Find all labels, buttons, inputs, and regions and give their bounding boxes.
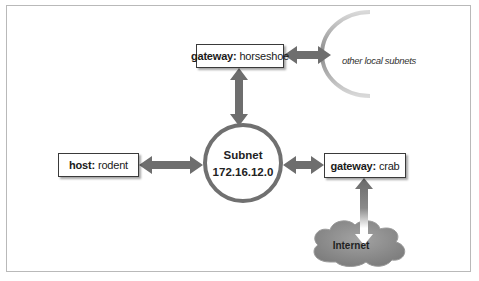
node-host-rodent[interactable]: host: rodent xyxy=(58,153,139,177)
node-name-label: crab xyxy=(379,160,400,172)
subnet-label: Subnet 172.16.12.0 xyxy=(205,147,281,181)
other-subnets-label: other local subnets xyxy=(342,55,416,66)
node-role-label: host: xyxy=(69,159,95,171)
node-gateway-horseshoe[interactable]: gateway: horseshoe xyxy=(196,44,284,68)
arrow-crab-internet xyxy=(355,178,373,245)
subnet-address: 172.16.12.0 xyxy=(205,164,281,181)
diagram-canvas xyxy=(0,0,479,281)
node-gateway-crab[interactable]: gateway: crab xyxy=(324,153,406,178)
arrow-subnet-crab xyxy=(283,156,324,174)
arrow-horseshoe-subnet xyxy=(230,68,248,126)
node-name-label: rodent xyxy=(98,159,128,171)
node-role-label: gateway: xyxy=(330,160,375,172)
node-name-label: horseshoe xyxy=(239,50,289,62)
node-role-label: gateway: xyxy=(191,50,236,62)
subnet-title: Subnet xyxy=(205,147,281,164)
internet-label: Internet xyxy=(330,240,372,251)
arrow-rodent-subnet xyxy=(139,156,203,174)
